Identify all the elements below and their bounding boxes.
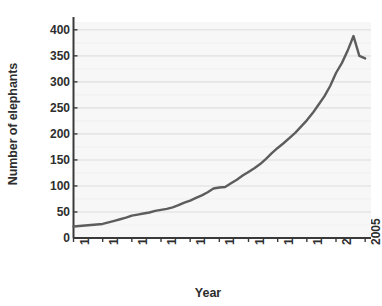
plot-background xyxy=(74,22,372,238)
x-axis-title-text: Year xyxy=(161,286,221,300)
x-axis-title: Year xyxy=(0,286,382,300)
plot-area xyxy=(0,0,382,306)
elephant-population-chart: Number of elephants 05010015020025030035… xyxy=(0,0,382,306)
